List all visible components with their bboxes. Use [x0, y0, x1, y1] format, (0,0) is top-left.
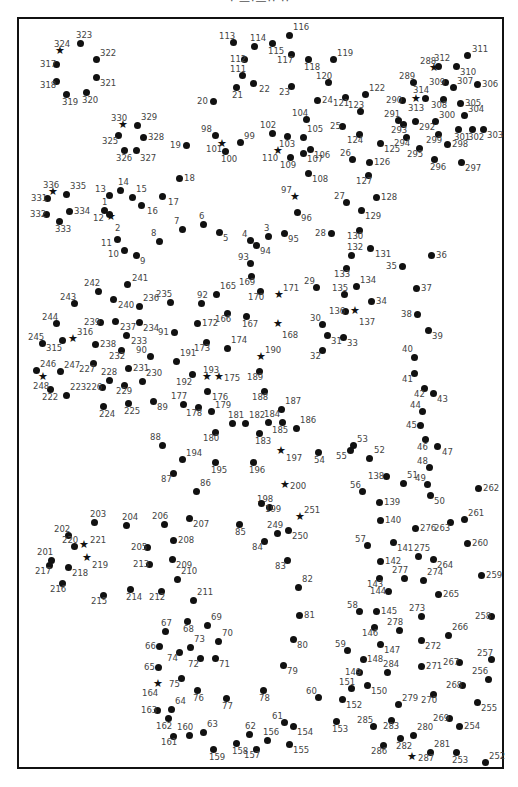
point-label: 295 [407, 150, 423, 159]
point-label: 238 [100, 340, 116, 349]
point-label: 75 [169, 680, 180, 689]
dot-marker [347, 447, 354, 454]
dot-marker [167, 299, 174, 306]
point-label: 172 [202, 319, 218, 328]
point-label: 86 [200, 479, 211, 488]
point-label: 144 [370, 587, 386, 596]
dot-marker [373, 608, 380, 615]
dot-marker [450, 84, 457, 91]
point-label: 197 [286, 454, 302, 463]
point-label: 300 [439, 111, 455, 120]
dot-marker [246, 731, 253, 738]
point-label: 41 [402, 375, 413, 384]
dot-marker [286, 32, 293, 39]
point-label: 164 [142, 689, 158, 698]
point-label: 54 [314, 456, 325, 465]
point-label: 218 [72, 569, 88, 578]
dot-marker [376, 499, 383, 506]
dot-marker [330, 56, 337, 63]
point-label: 4 [242, 230, 247, 239]
point-label: 21 [232, 91, 243, 100]
point-label: 313 [408, 104, 424, 113]
point-label: 35 [386, 262, 397, 271]
dot-marker [461, 112, 468, 119]
point-label: 242 [84, 279, 100, 288]
dot-marker [112, 318, 119, 325]
dot-marker [161, 521, 168, 528]
dot-marker [92, 341, 99, 348]
point-label: 139 [384, 498, 400, 507]
point-label: 46 [417, 443, 428, 452]
point-label: 82 [302, 575, 313, 584]
point-label: 65 [144, 663, 155, 672]
point-label: 283 [383, 722, 399, 731]
dot-marker [147, 353, 154, 360]
point-label: 247 [64, 361, 80, 370]
dot-marker [425, 327, 432, 334]
point-label: 3 [264, 224, 269, 233]
point-label: 140 [385, 516, 401, 525]
point-label: 100 [221, 155, 237, 164]
dot-marker [173, 358, 180, 365]
point-label: 136 [329, 307, 345, 316]
star-marker-icon: ★ [407, 751, 417, 763]
point-label: 14 [118, 178, 129, 187]
point-label: 255 [481, 704, 497, 713]
point-label: 43 [437, 395, 448, 404]
point-label: 128 [381, 193, 397, 202]
dot-marker [237, 139, 244, 146]
dot-marker [159, 193, 166, 200]
point-label: 129 [365, 212, 381, 221]
dot-marker [129, 194, 136, 201]
point-label: 334 [74, 207, 90, 216]
point-label: 61 [272, 712, 283, 721]
point-label: 224 [99, 410, 115, 419]
dot-marker [213, 291, 220, 298]
point-label: 322 [100, 49, 116, 58]
dot-marker [401, 575, 408, 582]
dot-marker [210, 98, 217, 105]
dot-marker [250, 80, 257, 87]
point-label: 148 [367, 655, 383, 664]
point-label: 25 [330, 122, 341, 131]
dot-marker [280, 662, 287, 669]
point-label: 16 [147, 207, 158, 216]
dot-marker [187, 644, 194, 651]
dot-marker [307, 146, 314, 153]
dot-marker [377, 517, 384, 524]
dot-marker [366, 455, 373, 462]
point-label: 64 [175, 697, 186, 706]
point-label: 270 [421, 696, 437, 705]
point-label: 150 [371, 687, 387, 696]
point-label: 60 [306, 687, 317, 696]
dot-marker [418, 637, 425, 644]
dot-marker [353, 283, 360, 290]
point-label: 190 [265, 346, 281, 355]
point-label: 69 [211, 613, 222, 622]
point-label: 233 [131, 337, 147, 346]
point-label: 10 [108, 250, 119, 259]
dot-marker [253, 242, 260, 249]
dot-marker [418, 663, 425, 670]
point-label: 279 [402, 694, 418, 703]
point-label: 71 [219, 660, 230, 669]
dot-marker [190, 597, 197, 604]
star-marker-icon: ★ [350, 305, 360, 317]
point-label: 37 [421, 284, 432, 293]
point-label: 314 [413, 86, 429, 95]
point-label: 56 [350, 481, 361, 490]
dot-marker [485, 676, 492, 683]
dot-marker [368, 298, 375, 305]
point-label: 15 [136, 185, 147, 194]
dot-marker [170, 537, 177, 544]
point-label: 327 [140, 154, 156, 163]
point-label: 156 [263, 728, 279, 737]
point-label: 146 [362, 629, 378, 638]
point-label: 210 [181, 567, 197, 576]
point-label: 58 [347, 601, 358, 610]
point-label: 83 [275, 562, 286, 571]
dot-marker [475, 485, 482, 492]
point-label: 258 [475, 612, 491, 621]
dot-marker [464, 540, 471, 547]
point-label: 276 [420, 524, 436, 533]
